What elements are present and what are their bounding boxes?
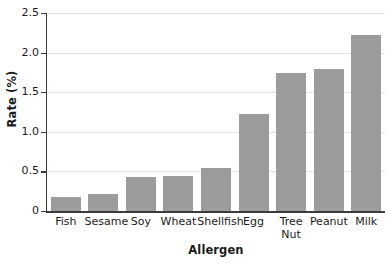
x-tick-label: Wheat xyxy=(160,216,198,229)
bar[interactable] xyxy=(314,69,344,211)
gridline xyxy=(47,53,385,54)
plot-area xyxy=(47,13,385,211)
bar[interactable] xyxy=(276,73,306,211)
bar[interactable] xyxy=(351,35,381,211)
y-tick-label: 1.0 xyxy=(0,126,39,137)
bar[interactable] xyxy=(126,177,156,211)
y-tick-label: 2.0 xyxy=(0,47,39,58)
y-tick-mark xyxy=(41,53,46,54)
bar[interactable] xyxy=(88,194,118,211)
allergen-rate-bar-chart: Rate (%) Allergen 00.51.01.52.02.5FishSe… xyxy=(0,0,392,266)
y-tick-mark xyxy=(41,13,46,14)
y-tick-label: 2.5 xyxy=(0,7,39,18)
bar[interactable] xyxy=(239,114,269,211)
y-tick-mark xyxy=(41,132,46,133)
y-tick-mark xyxy=(41,211,46,212)
x-tick-label: Fish xyxy=(47,216,85,229)
x-tick-label: Peanut xyxy=(310,216,348,229)
bar[interactable] xyxy=(51,197,81,211)
x-tick-label: Tree Nut xyxy=(272,216,310,241)
bar[interactable] xyxy=(201,168,231,211)
x-tick-label: Sesame xyxy=(85,216,123,229)
gridline xyxy=(47,13,385,14)
y-tick-label: 1.5 xyxy=(0,86,39,97)
x-tick-label: Milk xyxy=(347,216,385,229)
bar[interactable] xyxy=(163,176,193,211)
y-tick-label: 0.5 xyxy=(0,165,39,176)
y-axis-line xyxy=(46,13,47,212)
y-tick-mark xyxy=(41,92,46,93)
x-tick-label: Soy xyxy=(122,216,160,229)
y-tick-label: 0 xyxy=(0,205,39,216)
x-axis-title: Allergen xyxy=(47,243,385,257)
x-tick-label: Shellfish xyxy=(197,216,235,229)
y-tick-mark xyxy=(41,171,46,172)
x-axis-line xyxy=(46,211,385,213)
x-tick-label: Egg xyxy=(235,216,273,229)
